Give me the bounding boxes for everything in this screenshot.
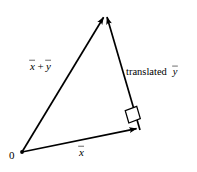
vector-x-label: x xyxy=(78,147,85,158)
vector-x-glyph: x xyxy=(29,61,36,72)
vector-x-letter: x xyxy=(30,60,35,72)
plus-sign: + xyxy=(36,60,45,72)
vector-x-plus-y-arrow xyxy=(22,17,104,152)
vector-x-letter: x xyxy=(79,146,84,158)
vector-addition-figure: 0 x+y x translatedy xyxy=(0,0,197,172)
translated-y-label: translatedy xyxy=(126,67,179,78)
vector-y-glyph: y xyxy=(45,61,52,72)
vector-y-glyph: y xyxy=(172,67,179,78)
translated-word: translated xyxy=(126,66,167,77)
vector-sum-label: x+y xyxy=(29,61,52,72)
vector-y-letter: y xyxy=(46,60,51,72)
vector-x-glyph: x xyxy=(78,147,85,158)
vector-diagram-canvas xyxy=(0,0,197,172)
vector-y-letter: y xyxy=(173,66,178,77)
origin-label: 0 xyxy=(9,150,15,161)
